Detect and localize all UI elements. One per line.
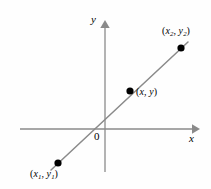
point-slope-line — [51, 42, 188, 170]
point-label-2: (x2, y2) — [162, 26, 190, 36]
x-axis-label: x — [189, 133, 194, 144]
point-label-2-close: ) — [187, 25, 190, 36]
point-label-1-close: ) — [55, 168, 58, 179]
origin-label: 0 — [94, 131, 100, 142]
point-label-2-x-subscript: 2 — [170, 30, 173, 37]
point-marker-1 — [54, 159, 61, 166]
y-axis-arrowhead — [100, 20, 109, 28]
point-label-1: (x1, y1) — [30, 169, 58, 179]
point-label-1-y-subscript: 1 — [51, 173, 54, 180]
point-label-1-x-subscript: 1 — [38, 173, 41, 180]
point-label-mid: (x, y) — [136, 87, 157, 97]
point-marker-mid — [126, 87, 133, 94]
point-label-mid-close: ) — [154, 86, 157, 97]
y-axis-label: y — [91, 14, 96, 25]
coordinate-plane-figure: y x 0 (x1, y1) (x, y) (x2, y2) — [0, 0, 211, 189]
point-marker-2 — [177, 44, 184, 51]
point-label-2-y-subscript: 2 — [183, 30, 186, 37]
